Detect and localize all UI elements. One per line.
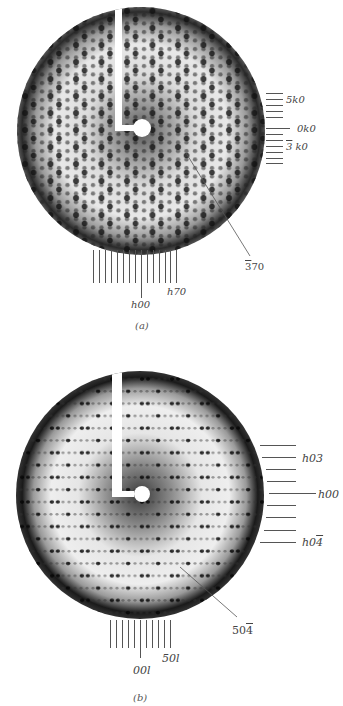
label-50-4bar: 504 xyxy=(232,625,253,636)
pointer-line-a xyxy=(0,0,343,340)
panel-b: h03 h00 h04 50l 00l 504 (b) xyxy=(0,360,343,706)
caption-a: (a) xyxy=(135,320,149,331)
panel-a: 5k0 0k0 3 k0 h70 h00 370 (a) xyxy=(0,0,343,340)
pointer-line-b xyxy=(0,360,343,706)
label-3bar70: 370 xyxy=(245,262,264,272)
caption-b: (b) xyxy=(133,692,147,703)
